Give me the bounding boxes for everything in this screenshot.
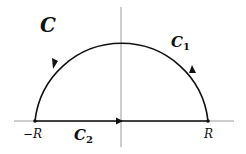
- label-segment: C2: [74, 126, 93, 145]
- contour-diagram: C C1 C2 −R R: [0, 0, 246, 154]
- label-r: R: [203, 127, 213, 141]
- arrow-arc-left-icon: [52, 58, 58, 69]
- point-minus-r: [33, 119, 37, 123]
- point-r: [206, 119, 210, 123]
- label-minus-r: −R: [23, 127, 42, 141]
- label-segment-main: C: [74, 126, 86, 144]
- label-contour: C: [40, 13, 56, 37]
- label-arc: C1: [171, 33, 190, 52]
- label-arc-main: C: [171, 33, 183, 51]
- arrow-segment-icon: [116, 118, 123, 125]
- label-arc-sub: 1: [183, 41, 190, 52]
- arrow-arc-right-icon: [189, 65, 196, 73]
- label-segment-sub: 2: [86, 134, 93, 145]
